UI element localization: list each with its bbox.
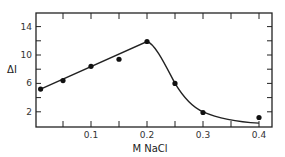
y-tick-label: 10 xyxy=(21,50,33,60)
y-tick-label: 6 xyxy=(26,78,32,88)
data-point xyxy=(88,64,93,69)
x-tick-label: 0.3 xyxy=(196,130,210,140)
x-axis-title: M NaCl xyxy=(132,143,167,154)
data-point xyxy=(144,39,149,44)
y-axis-title: ΔI xyxy=(7,64,17,75)
data-point xyxy=(116,57,121,62)
data-point xyxy=(38,86,43,91)
y-tick-label: 2 xyxy=(26,107,32,117)
data-points xyxy=(38,39,262,120)
chart: 0.10.20.30.4261014 M NaCl ΔI xyxy=(0,0,285,157)
data-point xyxy=(172,81,177,86)
ticks xyxy=(36,13,272,127)
x-tick-label: 0.4 xyxy=(252,130,267,140)
x-tick-label: 0.1 xyxy=(84,130,98,140)
fit-curve xyxy=(41,42,259,124)
plot-frame xyxy=(36,13,272,127)
y-tick-label: 14 xyxy=(21,22,33,32)
data-point xyxy=(256,115,261,120)
data-point xyxy=(200,110,205,115)
data-point xyxy=(60,78,65,83)
x-tick-label: 0.2 xyxy=(140,130,154,140)
